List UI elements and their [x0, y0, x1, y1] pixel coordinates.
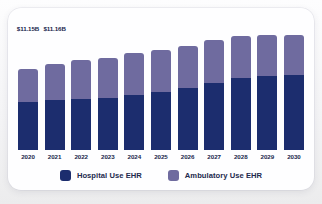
- x-axis-tick-2029: 2029: [257, 153, 277, 160]
- bar-segment-ambulatory[interactable]: [284, 35, 304, 75]
- bar-value-label: $11.15B: [17, 25, 39, 32]
- bar-column[interactable]: $11.15B: [18, 35, 38, 150]
- legend-item-hospital[interactable]: Hospital Use EHR: [60, 170, 142, 181]
- chart-card: $11.15B$11.16B 2020202120222023202420252…: [8, 8, 314, 190]
- bar-segment-hospital[interactable]: [45, 100, 65, 150]
- legend-swatch-hospital-icon: [60, 170, 71, 181]
- x-axis-tick-2021: 2021: [45, 153, 65, 160]
- x-axis-tick-2026: 2026: [178, 153, 198, 160]
- bar-segment-hospital[interactable]: [151, 92, 171, 150]
- bar-segment-hospital[interactable]: [18, 102, 38, 150]
- chart-legend: Hospital Use EHR Ambulatory Use EHR: [8, 167, 314, 183]
- bar-segment-ambulatory[interactable]: [231, 36, 251, 78]
- x-axis-tick-2024: 2024: [124, 153, 144, 160]
- x-axis-tick-2022: 2022: [71, 153, 91, 160]
- x-axis-tick-2023: 2023: [98, 153, 118, 160]
- legend-swatch-ambulatory-icon: [168, 170, 179, 181]
- x-axis-tick-2030: 2030: [284, 153, 304, 160]
- bar-segment-hospital[interactable]: [284, 75, 304, 150]
- bar-segment-hospital[interactable]: [231, 78, 251, 150]
- chart-screenshot: $11.15B$11.16B 2020202120222023202420252…: [0, 0, 322, 204]
- plot-area: $11.15B$11.16B: [18, 22, 304, 150]
- bar-segment-hospital[interactable]: [178, 88, 198, 150]
- bar-column[interactable]: [71, 35, 91, 150]
- bar-segment-hospital[interactable]: [204, 83, 224, 150]
- bar-segment-ambulatory[interactable]: [257, 35, 277, 76]
- bar-column[interactable]: $11.16B: [45, 35, 65, 150]
- bar-segment-ambulatory[interactable]: [151, 50, 171, 92]
- bar-segment-ambulatory[interactable]: [18, 69, 38, 102]
- bar-column[interactable]: [204, 35, 224, 150]
- bar-column[interactable]: [231, 35, 251, 150]
- x-axis-tick-2028: 2028: [231, 153, 251, 160]
- bar-column[interactable]: [124, 35, 144, 150]
- legend-label-ambulatory: Ambulatory Use EHR: [185, 171, 262, 180]
- bar-segment-ambulatory[interactable]: [204, 40, 224, 83]
- bar-segment-ambulatory[interactable]: [71, 60, 91, 99]
- bar-segment-ambulatory[interactable]: [98, 58, 118, 98]
- bar-value-label: $11.16B: [43, 25, 65, 32]
- bar-segment-ambulatory[interactable]: [124, 53, 144, 95]
- bar-column[interactable]: [151, 35, 171, 150]
- bar-segment-hospital[interactable]: [124, 95, 144, 150]
- bar-column[interactable]: [98, 35, 118, 150]
- bar-segment-hospital[interactable]: [98, 98, 118, 150]
- x-axis-tick-2025: 2025: [151, 153, 171, 160]
- legend-item-ambulatory[interactable]: Ambulatory Use EHR: [168, 170, 262, 181]
- x-axis-tick-2020: 2020: [18, 153, 38, 160]
- x-axis-tick-2027: 2027: [204, 153, 224, 160]
- bar-segment-ambulatory[interactable]: [178, 46, 198, 88]
- bar-column[interactable]: [178, 35, 198, 150]
- bar-segment-hospital[interactable]: [71, 99, 91, 150]
- bar-column[interactable]: [257, 35, 277, 150]
- bar-segment-hospital[interactable]: [257, 76, 277, 150]
- bar-segment-ambulatory[interactable]: [45, 64, 65, 100]
- x-axis-tick-labels: 2020202120222023202420252026202720282029…: [18, 151, 304, 162]
- legend-label-hospital: Hospital Use EHR: [77, 171, 142, 180]
- bar-group: $11.15B$11.16B: [18, 35, 304, 150]
- bar-column[interactable]: [284, 35, 304, 150]
